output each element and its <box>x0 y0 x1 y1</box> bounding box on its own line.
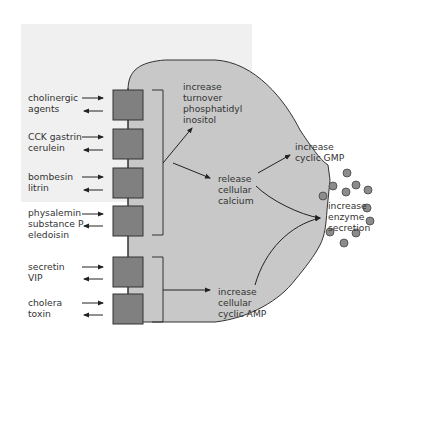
text: secretion <box>328 222 370 233</box>
text: bombesin <box>28 171 73 182</box>
pathway-label-pi-turnover: increaseturnoverphosphatidylinositol <box>183 81 242 125</box>
text: cellular <box>218 297 252 308</box>
text: increase <box>218 286 257 297</box>
pathway-label-secretion: increaseenzymesecretion <box>328 200 370 233</box>
text: eledoisin <box>28 229 69 240</box>
text: litrin <box>28 182 49 193</box>
text: cholinergic <box>28 92 78 103</box>
text: release <box>218 173 252 184</box>
text: enzyme <box>328 211 364 222</box>
agonist-label-secretin: secretinVIP <box>28 261 65 283</box>
agonist-label-bombesin: bombesinlitrin <box>28 171 73 193</box>
pathway-label-calcium: releasecellularcalcium <box>218 173 254 206</box>
text: turnover <box>183 92 222 103</box>
text: CCK gastrin <box>28 131 82 142</box>
text: cerulein <box>28 142 65 153</box>
text: VIP <box>28 272 43 283</box>
pathway-label-cgmp: increasecyclic GMP <box>295 141 344 163</box>
text: cyclic AMP <box>218 308 266 319</box>
text: increase <box>183 81 222 92</box>
agonist-label-cholera: choleratoxin <box>28 297 62 319</box>
text: agents <box>28 103 59 114</box>
text: secretin <box>28 261 65 272</box>
text: inositol <box>183 114 216 125</box>
text: increase <box>328 200 367 211</box>
agonist-label-cholinergic: cholinergicagents <box>28 92 78 114</box>
agonist-label-physalemin: physaleminsubstance Peledoisin <box>28 207 83 240</box>
text: toxin <box>28 308 51 319</box>
text: calcium <box>218 195 254 206</box>
text: increase <box>295 141 334 152</box>
text: cellular <box>218 184 252 195</box>
pathway-label-camp: increasecellularcyclic AMP <box>218 286 266 319</box>
text: cyclic GMP <box>295 152 344 163</box>
text: substance P <box>28 218 83 229</box>
text: phosphatidyl <box>183 103 242 114</box>
agonist-label-cck: CCK gastrincerulein <box>28 131 82 153</box>
text: cholera <box>28 297 62 308</box>
text: physalemin <box>28 207 81 218</box>
